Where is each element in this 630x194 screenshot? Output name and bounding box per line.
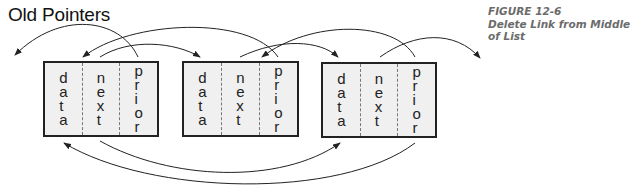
field-label: data xyxy=(59,71,67,127)
list-node-1: data next prior xyxy=(43,61,159,137)
field-label: data xyxy=(198,71,206,127)
list-node-2: data next prior xyxy=(182,61,299,137)
arrow-node2-next-old xyxy=(240,43,338,57)
node-field-prior: prior xyxy=(398,64,435,136)
field-label: prior xyxy=(413,65,421,135)
field-label: next xyxy=(97,71,105,127)
arrow-node1-next-new xyxy=(100,141,340,172)
field-label: prior xyxy=(135,64,143,134)
node-field-next: next xyxy=(83,63,121,135)
node-field-next: next xyxy=(361,64,399,136)
arrow-node1-next-old xyxy=(100,44,200,57)
field-label: next xyxy=(236,71,244,127)
node-field-data: data xyxy=(184,63,222,135)
node-field-data: data xyxy=(323,64,361,136)
arrow-node1-prior-old xyxy=(15,24,138,57)
node-field-data: data xyxy=(45,63,83,135)
list-node-3: data next prior xyxy=(321,62,437,138)
node-field-next: next xyxy=(222,63,260,135)
arrow-node3-prior-old xyxy=(262,29,415,57)
field-label: data xyxy=(337,72,345,128)
field-label: prior xyxy=(274,64,282,134)
field-label: next xyxy=(375,72,383,128)
node-field-prior: prior xyxy=(120,63,157,135)
arrow-node2-prior-old xyxy=(83,27,278,57)
arrow-node3-next-old xyxy=(380,38,480,58)
node-field-prior: prior xyxy=(260,63,297,135)
